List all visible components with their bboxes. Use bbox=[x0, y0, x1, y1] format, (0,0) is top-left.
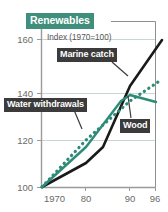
callout-marine-catch: Marine catch bbox=[57, 48, 117, 62]
x-tick-label-96: 96 bbox=[150, 193, 161, 204]
renewables-chart: 160 140 120 100 1970 80 90 96 Index (197… bbox=[0, 0, 168, 212]
y-tick-label-120: 120 bbox=[17, 135, 33, 146]
chart-title-badge: Renewables bbox=[26, 13, 94, 29]
callout-water-withdrawals: Water withdrawals bbox=[4, 98, 87, 112]
y-tick-label-160: 160 bbox=[17, 34, 33, 45]
chart-subtitle: Index (1970=100) bbox=[47, 33, 112, 42]
leader-marine-catch bbox=[112, 62, 128, 76]
y-tick-label-100: 100 bbox=[17, 182, 33, 193]
series-line-wood bbox=[42, 40, 162, 187]
callout-wood: Wood bbox=[120, 119, 150, 133]
x-tick-label-1970: 1970 bbox=[44, 193, 65, 204]
leader-water-withdrawals bbox=[74, 110, 82, 129]
x-tick-label-80: 80 bbox=[81, 193, 92, 204]
x-tick-label-90: 90 bbox=[125, 193, 136, 204]
